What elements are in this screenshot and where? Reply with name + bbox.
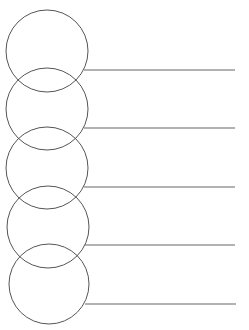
empty-circle [6,68,88,150]
graphic-organizer [0,0,249,330]
organizer-diagram [0,0,249,330]
organizer-item [9,244,236,324]
empty-circle [9,244,89,324]
organizer-item [6,10,235,92]
organizer-item [7,186,235,268]
organizer-item [6,68,235,150]
organizer-item [6,127,235,209]
